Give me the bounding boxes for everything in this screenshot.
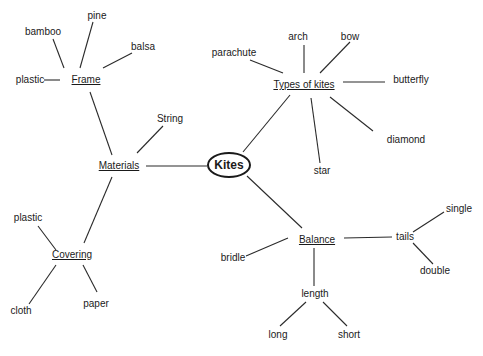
node-diamond: diamond	[387, 134, 425, 146]
connector-line	[38, 226, 56, 250]
node-long: long	[269, 329, 288, 341]
node-covering: Covering	[52, 249, 92, 261]
node-star: star	[314, 165, 331, 177]
node-pine: pine	[88, 10, 107, 22]
node-bamboo: bamboo	[25, 26, 61, 38]
node-balance: Balance	[299, 234, 335, 246]
node-frame-plastic: plastic	[16, 74, 44, 86]
connector-line	[53, 39, 64, 68]
connector-line	[344, 237, 392, 238]
connector-line	[83, 265, 97, 292]
connector-line	[330, 97, 373, 131]
connector-line	[84, 177, 112, 243]
mind-map-canvas: Kites MaterialsStringFramepinebamboobals…	[0, 0, 483, 356]
connector-line	[323, 302, 347, 326]
root-node-kites: Kites	[207, 152, 251, 178]
node-arch: arch	[288, 31, 307, 43]
connector-line	[413, 243, 433, 264]
node-types: Types of kites	[273, 79, 334, 91]
connector-line	[29, 265, 56, 304]
node-bow: bow	[341, 31, 359, 43]
node-butterfly: butterfly	[393, 74, 429, 86]
connector-line	[413, 212, 444, 232]
connector-line	[90, 92, 112, 155]
node-cloth: cloth	[10, 305, 31, 317]
connector-line	[80, 22, 93, 68]
connector-line	[103, 53, 132, 68]
connector-line	[250, 60, 283, 73]
node-tails: tails	[396, 231, 414, 243]
node-cover-plastic: plastic	[14, 212, 42, 224]
node-frame: Frame	[72, 74, 101, 86]
connector-line	[243, 95, 290, 152]
node-balsa: balsa	[131, 41, 155, 53]
node-parachute: parachute	[212, 47, 256, 59]
connector-line	[247, 176, 302, 228]
node-double: double	[420, 265, 450, 277]
node-bridle: bridle	[221, 252, 245, 264]
node-short: short	[338, 329, 360, 341]
node-materials: Materials	[99, 160, 140, 172]
node-single: single	[446, 203, 472, 215]
root-label: Kites	[214, 158, 243, 172]
connector-line	[311, 98, 320, 163]
connector-line	[280, 302, 306, 326]
connector-line	[320, 42, 350, 73]
node-string: String	[157, 113, 183, 125]
connector-line	[246, 238, 288, 256]
node-paper: paper	[83, 298, 109, 310]
node-length: length	[301, 288, 328, 300]
connector-line	[137, 126, 163, 153]
